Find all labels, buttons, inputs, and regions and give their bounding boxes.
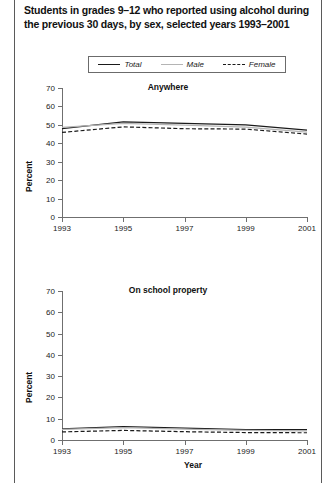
x-tick-label: 1993 xyxy=(53,447,71,456)
x-tick-label: 1995 xyxy=(114,224,132,233)
y-tick-label: 50 xyxy=(31,329,55,338)
figure-page: Students in grades 9–12 who reported usi… xyxy=(0,0,335,483)
series-lines xyxy=(62,88,309,219)
legend-label-total: Total xyxy=(124,60,141,69)
legend-item-male: Male xyxy=(161,60,204,69)
x-tick-label: 2001 xyxy=(298,447,316,456)
y-tick-label: 30 xyxy=(31,372,55,381)
line-solid-dark-icon xyxy=(98,61,120,68)
y-tick-label: 40 xyxy=(31,139,55,148)
legend-label-male: Male xyxy=(187,60,204,69)
chart-panel-anywhere: Anywhere Percent 01020304050607019931995… xyxy=(18,80,318,260)
y-tick-label: 70 xyxy=(31,287,55,296)
legend-item-female: Female xyxy=(223,60,276,69)
y-tick-label: 50 xyxy=(31,120,55,129)
x-tick-label: 1999 xyxy=(237,224,255,233)
line-dashed-icon xyxy=(223,61,245,68)
y-tick-label: 20 xyxy=(31,176,55,185)
chart-legend: Total Male Female xyxy=(88,56,286,73)
x-tick-label: 1997 xyxy=(176,224,194,233)
y-tick-label: 60 xyxy=(31,308,55,317)
y-tick-label: 70 xyxy=(31,84,55,93)
x-tick-label: 2001 xyxy=(298,224,316,233)
chart-panel-school: On school property Percent Year 01020304… xyxy=(18,283,318,478)
y-tick-label: 20 xyxy=(31,393,55,402)
y-tick-label: 0 xyxy=(31,436,55,445)
plot-area-school: 01020304050607019931995199719992001 xyxy=(62,291,307,440)
series-line-female xyxy=(62,127,307,134)
y-tick-label: 60 xyxy=(31,102,55,111)
plot-area-anywhere: 01020304050607019931995199719992001 xyxy=(62,88,307,217)
page-rule-right xyxy=(321,0,322,483)
y-tick-label: 10 xyxy=(31,194,55,203)
y-tick-label: 30 xyxy=(31,157,55,166)
y-tick-label: 0 xyxy=(31,213,55,222)
y-tick-label: 40 xyxy=(31,350,55,359)
x-tick-label: 1997 xyxy=(176,447,194,456)
x-tick-label: 1995 xyxy=(114,447,132,456)
x-axis-label-year: Year xyxy=(43,460,335,470)
legend-label-female: Female xyxy=(249,60,276,69)
page-title: Students in grades 9–12 who reported usi… xyxy=(24,4,314,31)
x-tick-label: 1999 xyxy=(237,447,255,456)
line-solid-gray-icon xyxy=(161,61,183,68)
page-rule-left xyxy=(14,0,15,483)
y-tick-label: 10 xyxy=(31,414,55,423)
legend-item-total: Total xyxy=(98,60,141,69)
x-tick-label: 1993 xyxy=(53,224,71,233)
series-lines xyxy=(62,291,309,442)
